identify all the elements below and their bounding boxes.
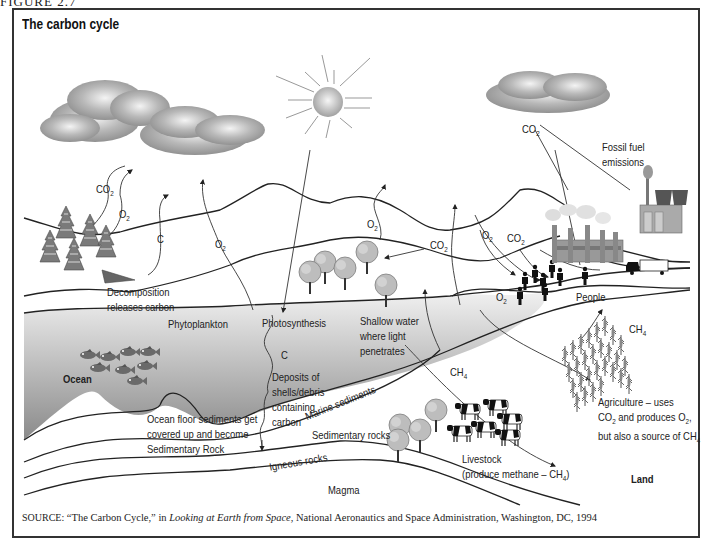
label-shallow-water: Shallow waterwhere lightpenetrates	[360, 314, 419, 359]
deciduous-trees-land	[387, 399, 447, 462]
cloud-right	[486, 71, 610, 113]
label-co2-people: CO2	[507, 231, 525, 250]
label-land: Land	[631, 472, 654, 487]
label-decomposition: Decompositionreleases carbon	[107, 285, 174, 315]
sun	[276, 55, 372, 138]
label-c-deposit: C	[281, 348, 288, 363]
label-phytoplankton: Phytoplankton	[168, 317, 228, 332]
label-livestock: Livestock(produce methane – CH4)	[462, 452, 570, 486]
cloud-middle	[140, 106, 265, 155]
label-fossil-fuel: Fossil fuelemissions	[602, 140, 645, 170]
label-o2-people-lower: O2	[496, 290, 507, 309]
factory	[640, 165, 688, 233]
label-sedimentary-rocks: Sedimentary rocks	[312, 428, 390, 443]
label-ocean: Ocean	[63, 372, 92, 387]
label-c-decomposition: C	[157, 232, 164, 247]
deciduous-trees-shore	[299, 241, 397, 307]
truck	[626, 260, 668, 275]
label-ocean-floor: Ocean floor sediments getcovered up and …	[147, 412, 257, 457]
label-ch4-agriculture: CH4	[629, 322, 646, 341]
livestock-herd	[447, 399, 522, 446]
label-o2-people-upper: O2	[482, 228, 493, 247]
power-plant	[545, 204, 623, 263]
label-ch4-livestock: CH4	[450, 365, 467, 384]
label-people: People	[576, 290, 605, 305]
label-o2-pines: O2	[119, 207, 130, 226]
label-agriculture: Agriculture – usesCO2 and produces O2,bu…	[598, 395, 700, 448]
label-deposits: Deposits ofshells/debriscontainingcarbon	[272, 370, 325, 430]
carbon-cycle-illustration	[0, 0, 708, 549]
label-o2-shallow: O2	[367, 217, 378, 236]
label-o2-middle: O2	[215, 237, 226, 256]
label-photosynthesis: Photosynthesis	[262, 316, 326, 331]
label-co2-top: CO2	[522, 122, 540, 141]
source-citation: SOURCE: “The Carbon Cycle,” in Looking a…	[22, 512, 597, 523]
label-magma: Magma	[328, 483, 360, 498]
label-co2-clouds: CO2	[96, 182, 114, 201]
label-co2-trees: CO2	[430, 238, 448, 257]
